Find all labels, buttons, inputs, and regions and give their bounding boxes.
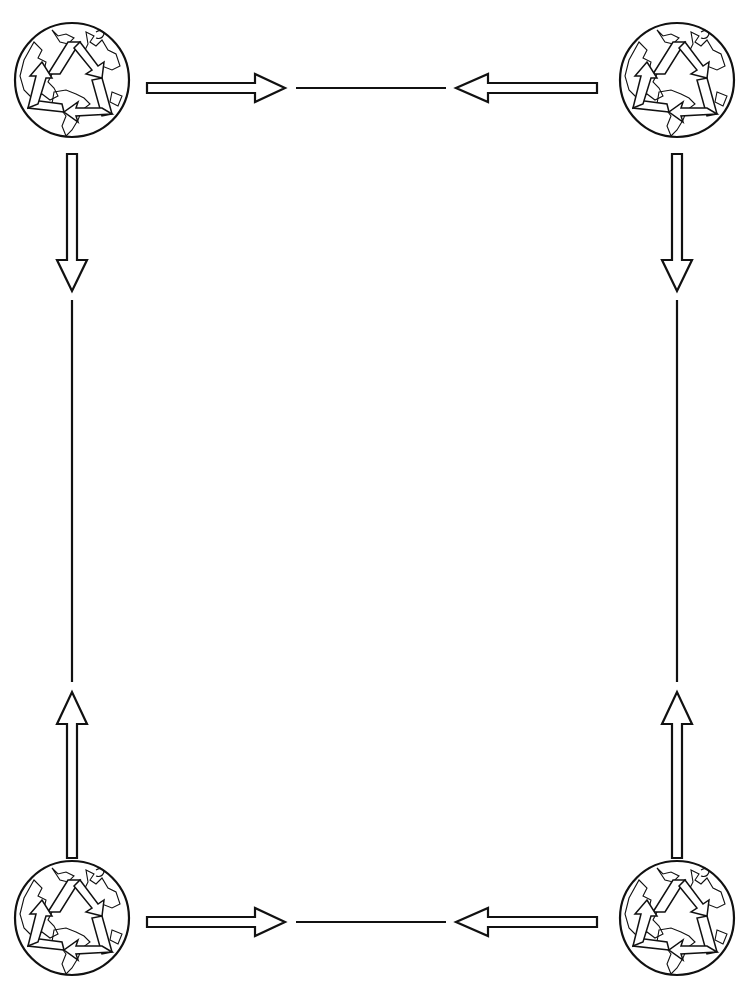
recycle-globe-icon — [15, 861, 129, 975]
arrow-down-icon — [662, 154, 692, 291]
recycle-globe-icon — [15, 23, 129, 137]
arrow-right-icon — [147, 74, 285, 102]
arrow-right-icon — [147, 908, 285, 936]
recycling-page-border — [0, 0, 748, 994]
arrow-left-icon — [456, 74, 597, 102]
arrow-up-icon — [57, 692, 87, 858]
recycle-globe-icon — [620, 23, 734, 137]
arrow-down-icon — [57, 154, 87, 291]
arrow-up-icon — [662, 692, 692, 858]
recycle-globe-icon — [620, 861, 734, 975]
arrow-left-icon — [456, 908, 597, 936]
